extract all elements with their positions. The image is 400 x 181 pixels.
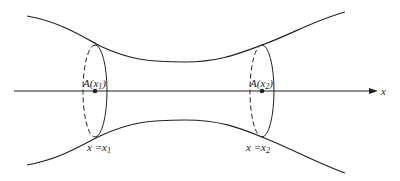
area-label-1: A(x1) xyxy=(82,77,106,91)
area-label-2: A(x2) xyxy=(249,77,273,91)
upper-boundary-curve xyxy=(27,12,345,62)
cross-section-2-center-point xyxy=(260,89,265,94)
position-label-2: x =x2 xyxy=(245,141,270,155)
x-axis-arrow-icon xyxy=(369,88,378,94)
cross-section-1-center-point xyxy=(93,89,98,94)
position-label-1: x =xx =x1 xyxy=(86,141,111,155)
solid-of-revolution-diagram: x A(x1) x =xx =x1 A(x2) x =x2 xyxy=(0,0,400,181)
lower-boundary-curve xyxy=(27,120,345,173)
x-axis-label: x xyxy=(380,85,386,97)
